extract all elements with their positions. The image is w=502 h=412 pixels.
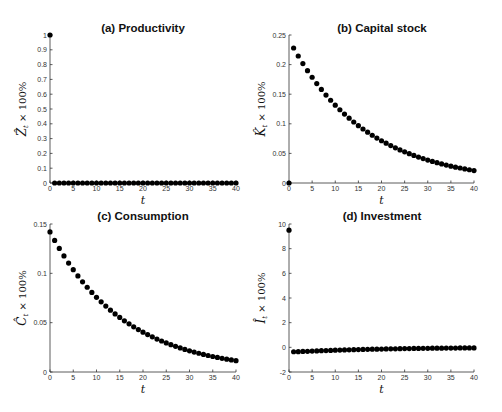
data-point [416, 154, 421, 159]
data-point [430, 346, 435, 351]
data-point [342, 347, 347, 352]
y-tick-label: 2 [282, 319, 286, 326]
data-point [140, 330, 145, 335]
data-point [229, 180, 234, 185]
x-tick-label: 30 [186, 185, 194, 192]
chart-consumption: 051015202530354000.050.10.15tĈt × 100% [0, 206, 251, 412]
data-point [453, 345, 458, 350]
data-point [187, 348, 192, 353]
data-point [47, 229, 52, 234]
data-point [224, 357, 229, 362]
axes [50, 224, 236, 372]
data-point [117, 180, 122, 185]
x-tick-label: 10 [331, 374, 339, 381]
data-point [94, 295, 99, 300]
data-point [215, 355, 220, 360]
panel-capital-stock: (b) Capital stock 051015202530354000.050… [251, 0, 502, 206]
data-point [219, 356, 224, 361]
data-point [145, 180, 150, 185]
data-point [201, 180, 206, 185]
data-point [159, 338, 164, 343]
x-tick-label: 35 [209, 374, 217, 381]
data-point [328, 98, 333, 103]
x-tick-label: 10 [93, 185, 101, 192]
data-point [150, 334, 155, 339]
data-point [360, 347, 365, 352]
data-point [370, 133, 375, 138]
data-point [113, 180, 118, 185]
chart-productivity: 051015202530354000.10.20.30.40.50.60.70.… [0, 0, 251, 206]
data-point [229, 357, 234, 362]
x-tick-label: 25 [401, 185, 409, 192]
panel-consumption: (c) Consumption 051015202530354000.050.1… [0, 206, 251, 412]
y-tick-label: 0.4 [37, 120, 47, 127]
data-point [154, 336, 159, 341]
data-point [103, 180, 108, 185]
data-point [467, 167, 472, 172]
y-tick-label: 0.2 [37, 150, 47, 157]
data-point [122, 318, 127, 323]
data-point [319, 348, 324, 353]
data-point [300, 349, 305, 354]
data-point [333, 348, 338, 353]
x-tick-label: 40 [470, 185, 478, 192]
data-point [310, 348, 315, 353]
data-point [365, 347, 370, 352]
data-point [448, 164, 453, 169]
data-point [178, 180, 183, 185]
data-point [323, 92, 328, 97]
data-point [347, 347, 352, 352]
data-point [126, 180, 131, 185]
data-point [356, 123, 361, 128]
y-tick-label: 0.1 [276, 120, 286, 127]
data-point [337, 107, 342, 112]
data-point [108, 308, 113, 313]
y-tick-label: 0.05 [33, 319, 47, 326]
x-axis-label: t [141, 194, 146, 206]
data-point [305, 349, 310, 354]
x-tick-label: 20 [139, 374, 147, 381]
data-point [416, 346, 421, 351]
data-point [173, 180, 178, 185]
data-point [347, 116, 352, 121]
data-point [122, 180, 127, 185]
data-point [85, 180, 90, 185]
data-point [314, 81, 319, 86]
data-point [439, 161, 444, 166]
data-point [61, 253, 66, 258]
data-point [434, 346, 439, 351]
y-tick-label: 0 [43, 180, 47, 187]
data-point [471, 345, 476, 350]
x-tick-label: 0 [48, 374, 52, 381]
data-point [471, 168, 476, 173]
y-tick-label: 0.5 [37, 106, 47, 113]
data-point [182, 180, 187, 185]
chart-investment: 0510152025303540-20246810tÎt × 100% [251, 206, 502, 412]
x-tick-label: 40 [470, 374, 478, 381]
y-tick-label: 0.2 [276, 61, 286, 68]
data-point [66, 180, 71, 185]
y-tick-label: 0.15 [33, 221, 47, 228]
x-tick-label: 40 [232, 374, 240, 381]
data-point [206, 180, 211, 185]
data-point [291, 45, 296, 50]
data-point [462, 166, 467, 171]
data-point [388, 143, 393, 148]
x-tick-label: 5 [310, 374, 314, 381]
data-point [384, 346, 389, 351]
data-point [131, 324, 136, 329]
data-point [75, 273, 80, 278]
data-point [126, 321, 131, 326]
data-point [319, 87, 324, 92]
data-point [444, 162, 449, 167]
y-tick-label: 0 [282, 344, 286, 351]
x-tick-label: 15 [116, 185, 124, 192]
data-point [360, 126, 365, 131]
y-tick-label: -2 [280, 369, 286, 376]
data-point [168, 180, 173, 185]
data-point [61, 180, 66, 185]
data-point [458, 165, 463, 170]
x-axis-label: t [379, 194, 384, 206]
data-point [402, 346, 407, 351]
y-tick-label: 0.3 [37, 135, 47, 142]
